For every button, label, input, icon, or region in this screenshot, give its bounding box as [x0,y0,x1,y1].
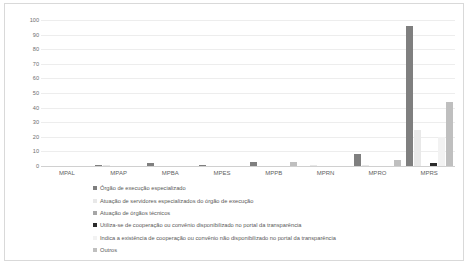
y-axis: 1009080706050403020100 [13,20,39,166]
bar[interactable] [438,137,445,166]
bar-group-mpal [41,20,93,166]
x-axis-label-mpap: MPAP [93,167,145,181]
x-axis-label-mpal: MPAL [41,167,93,181]
y-axis-tick: 0 [13,163,39,169]
y-axis-tick: 80 [13,46,39,52]
legend-label: Órgão de execução especializado [100,185,186,191]
legend-swatch-icon [93,236,97,240]
bar-group-mpro [352,20,404,166]
bar-group-mpba [145,20,197,166]
bar[interactable] [147,163,154,166]
bar-group-mpap [93,20,145,166]
legend-swatch-icon [93,199,97,203]
chart-legend: Órgão de execução especializadoAtuação d… [93,182,453,256]
y-axis-tick: 20 [13,134,39,140]
x-axis-label-mppb: MPPB [248,167,300,181]
legend-item[interactable]: Outros [93,244,453,256]
chart-container: 1009080706050403020100 MPALMPAPMPBAMPESM… [4,3,464,261]
bar[interactable] [354,154,361,166]
plot-canvas [41,20,455,166]
bar[interactable] [199,165,206,166]
x-axis-label-mprs: MPRS [403,167,455,181]
plot-area: 1009080706050403020100 [5,4,465,179]
bar[interactable] [310,165,317,166]
y-axis-tick: 70 [13,61,39,67]
legend-label: Outros [100,247,117,253]
legend-swatch-icon [93,223,97,227]
legend-item[interactable]: Atuação de órgãos técnicos [93,207,453,219]
legend-swatch-icon [93,186,97,190]
bar-group-mprs [403,20,455,166]
bar[interactable] [414,130,421,167]
legend-label: Atuação de órgãos técnicos [100,210,170,216]
y-axis-tick: 50 [13,90,39,96]
legend-label: Utiliza-se de cooperação ou convênio dis… [100,222,301,228]
x-axis-label-mprn: MPRN [300,167,352,181]
legend-label: Atuação de servidores especializados do … [100,198,253,204]
x-axis-label-mpes: MPES [196,167,248,181]
bar[interactable] [362,165,369,166]
legend-item[interactable]: Órgão de execução especializado [93,182,453,194]
y-axis-tick: 30 [13,119,39,125]
bar-groups [41,20,455,166]
bar-group-mppb [248,20,300,166]
bar[interactable] [250,162,257,166]
y-axis-tick: 100 [13,17,39,23]
bar[interactable] [103,165,110,166]
bar[interactable] [95,165,102,166]
y-axis-tick: 40 [13,105,39,111]
y-axis-tick: 10 [13,148,39,154]
legend-swatch-icon [93,211,97,215]
bar[interactable] [430,163,437,166]
bar[interactable] [406,26,413,166]
legend-item[interactable]: Atuação de servidores especializados do … [93,194,453,206]
legend-item[interactable]: Indica a existência de cooperação ou con… [93,232,453,244]
bar-group-mpes [196,20,248,166]
legend-label: Indica a existência de cooperação ou con… [100,235,336,241]
bar[interactable] [394,160,401,166]
bar-group-mprn [300,20,352,166]
bar[interactable] [446,102,453,166]
legend-swatch-icon [93,248,97,252]
x-axis-label-mpba: MPBA [145,167,197,181]
x-axis-label-mpro: MPRO [352,167,404,181]
bar[interactable] [290,162,297,166]
x-axis: MPALMPAPMPBAMPESMPPBMPRNMPROMPRS [41,167,455,181]
y-axis-tick: 60 [13,75,39,81]
legend-item[interactable]: Utiliza-se de cooperação ou convênio dis… [93,219,453,231]
y-axis-tick: 90 [13,32,39,38]
